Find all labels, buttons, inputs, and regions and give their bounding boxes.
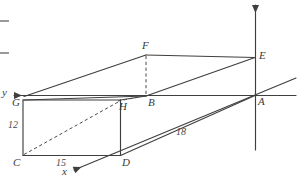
axis-label-y: y [2,87,7,98]
segment-g-to-f [24,55,146,97]
crop-mark [0,52,9,54]
vertex-label-D: D [122,157,130,168]
crop-mark [0,20,9,22]
vertex-label-C: C [13,157,20,168]
dashed-diagonal-c-to-h [24,101,120,155]
vertex-label-E: E [259,50,266,61]
segment-f-to-e [146,55,255,58]
segment-e-to-a [146,58,255,97]
edge-length-18: 18 [176,127,186,137]
diagram-canvas: A B C D E F G H 12 15 18 x y [0,0,298,176]
axis-label-x: x [62,166,67,176]
vertex-label-G: G [12,97,20,108]
geometry-figure [0,0,298,176]
vertex-label-H: H [119,101,127,112]
vertex-label-B: B [148,97,155,108]
axis-line-x [74,78,296,170]
vertex-label-A: A [258,96,265,107]
edge-length-12: 12 [8,120,18,130]
segment-d-to-a [121,96,256,156]
vertex-label-F: F [142,40,149,51]
